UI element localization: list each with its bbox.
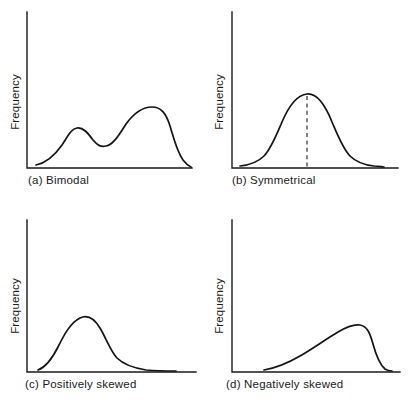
- panel-caption-positively-skewed: (c) Positively skewed: [25, 378, 137, 390]
- y-axis-label: Frequency: [7, 54, 23, 150]
- y-axis-label: Frequency: [211, 54, 227, 150]
- curve-positively-skewed: [38, 316, 176, 371]
- curve-negatively-skewed: [264, 325, 392, 371]
- panel-caption-negatively-skewed: (d) Negatively skewed: [226, 378, 343, 390]
- y-axis-label: Frequency: [7, 258, 23, 354]
- curve-bimodal: [36, 107, 191, 167]
- curve-symmetrical: [240, 94, 384, 167]
- panel-negatively-skewed: Frequency (d) Negatively skewed: [204, 204, 408, 408]
- y-axis-label: Frequency: [211, 258, 227, 354]
- panel-positively-skewed: Frequency (c) Positively skewed: [0, 204, 204, 408]
- panel-bimodal: Frequency (a) Bimodal: [0, 0, 204, 204]
- panel-caption-bimodal: (a) Bimodal: [28, 174, 89, 186]
- panel-symmetrical: Frequency (b) Symmetrical: [204, 0, 408, 204]
- distribution-shapes-figure: Frequency (a) Bimodal Frequency (b) Symm…: [0, 0, 408, 408]
- panel-caption-symmetrical: (b) Symmetrical: [232, 174, 316, 186]
- axes-symmetrical: [232, 12, 398, 168]
